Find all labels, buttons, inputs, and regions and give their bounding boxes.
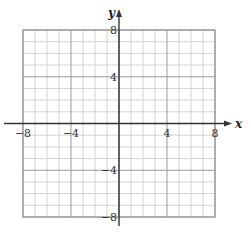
y-tick-label: −4 — [101, 164, 117, 177]
x-axis-arrow-icon — [224, 121, 232, 127]
y-tick-label: 8 — [110, 24, 117, 37]
x-tick-labels: −8−448 — [15, 127, 219, 140]
y-tick-label: −8 — [101, 211, 117, 224]
x-tick-label: −4 — [63, 127, 79, 140]
y-tick-label: 4 — [110, 71, 117, 84]
x-tick-label: 8 — [212, 127, 219, 140]
x-axis-label: x — [234, 117, 243, 131]
y-axis-arrow-icon — [116, 9, 122, 17]
y-axis-label: y — [107, 6, 116, 20]
x-tick-label: 4 — [164, 127, 171, 140]
coordinate-plane: x y −8−448 84−4−8 — [0, 0, 251, 239]
x-tick-label: −8 — [15, 127, 31, 140]
